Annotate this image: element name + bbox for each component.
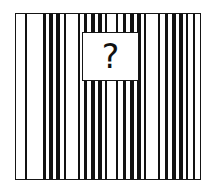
stripe-bar — [25, 14, 27, 179]
missing-piece-card[interactable]: ? — [82, 32, 139, 81]
question-mark-label: ? — [102, 40, 120, 73]
stripe-bar — [158, 14, 160, 179]
stripe-bar — [43, 14, 46, 179]
stripe-bar — [78, 14, 80, 179]
stripe-bar — [64, 14, 66, 179]
stripe-bar — [56, 14, 60, 179]
pattern-puzzle: ? — [0, 0, 216, 194]
stripe-bar — [144, 14, 146, 179]
stripe-bar — [193, 14, 195, 179]
stripe-bar — [49, 14, 53, 179]
stripe-bar — [165, 14, 168, 179]
stripe-bar — [172, 14, 176, 179]
stripe-bar — [179, 14, 183, 179]
stripe-bar — [186, 14, 188, 179]
